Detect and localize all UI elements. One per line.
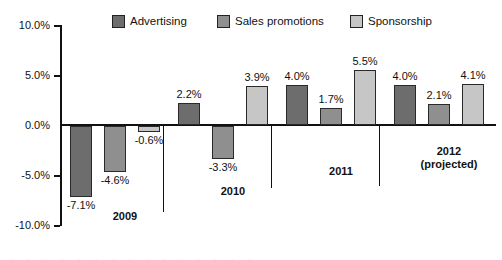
bar-2010-sponsorship xyxy=(246,86,268,125)
bar-value-label: 1.7% xyxy=(305,93,357,105)
bar-value-label: 4.1% xyxy=(447,69,499,81)
bar-2010-sales-promotions xyxy=(212,126,234,159)
y-tick-label-m5: -5.0% xyxy=(2,169,50,181)
y-tick-label-5: 5.0% xyxy=(2,69,50,81)
bar-2012-sales-promotions xyxy=(428,104,450,125)
bar-2009-advertising xyxy=(70,126,92,197)
bar-2009-sponsorship xyxy=(138,126,160,132)
y-tick-label-m10: -10.0% xyxy=(2,219,50,231)
bar-2012-sponsorship xyxy=(462,84,484,125)
group-label-2011: 2011 xyxy=(296,165,386,178)
bar-2010-advertising xyxy=(178,103,200,125)
page-bleed-artifact: . . . . . . . . . . . . . . . xyxy=(0,252,502,260)
bar-2009-sales-promotions xyxy=(104,126,126,172)
bar-chart: Advertising Sales promotions Sponsorship… xyxy=(0,0,502,260)
bar-value-label: 5.5% xyxy=(339,55,391,67)
bar-value-label: 2.1% xyxy=(413,89,465,101)
bar-value-label: -4.6% xyxy=(89,174,141,186)
bar-value-label: -0.6% xyxy=(123,134,175,146)
group-label-line1: 2010 xyxy=(188,185,278,198)
group-label-line1: 2012 xyxy=(404,145,494,158)
group-label-2012: 2012(projected) xyxy=(404,145,494,171)
bar-value-label: -3.3% xyxy=(197,161,249,173)
group-label-line2: (projected) xyxy=(404,158,494,171)
group-label-2010: 2010 xyxy=(188,185,278,198)
bar-value-label: 4.0% xyxy=(271,70,323,82)
group-separator xyxy=(163,126,164,212)
plot-area: -7.1%-4.6%-0.6%2.2%-3.3%3.9%4.0%1.7%5.5%… xyxy=(60,25,496,226)
bar-2011-sales-promotions xyxy=(320,108,342,125)
bar-value-label: 4.0% xyxy=(379,70,431,82)
group-separator xyxy=(271,126,272,188)
group-label-line1: 2011 xyxy=(296,165,386,178)
group-label-2009: 2009 xyxy=(80,210,170,223)
y-tick-label-10: 10.0% xyxy=(2,19,50,31)
group-label-line1: 2009 xyxy=(80,210,170,223)
bar-value-label: 2.2% xyxy=(163,88,215,100)
bar-2011-sponsorship xyxy=(354,70,376,125)
y-tick-label-0: 0.0% xyxy=(2,119,50,131)
